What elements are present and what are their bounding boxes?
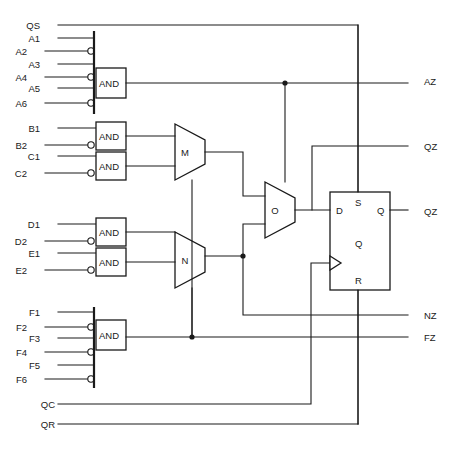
label-ff-q-center: Q [355, 238, 362, 249]
label-b1: B1 [28, 123, 40, 134]
label-and-f: AND [99, 330, 119, 341]
circuit-canvas: QS A1 A2 A3 A4 A5 A6 B1 B2 C1 C2 D1 D2 E… [0, 0, 462, 451]
label-and-d: AND [99, 227, 119, 238]
label-ff-r: R [355, 275, 362, 286]
label-a6: A6 [15, 98, 27, 109]
label-f3: F3 [29, 333, 40, 344]
mux-n-body [175, 232, 205, 288]
junction-mux-n-out [240, 253, 245, 258]
wire-mux-n-to-mux-o [243, 224, 265, 256]
label-b2: B2 [15, 140, 27, 151]
label-f1: F1 [29, 307, 40, 318]
circuit-schematic: QS A1 A2 A3 A4 A5 A6 B1 B2 C1 C2 D1 D2 E… [0, 0, 462, 451]
wire-mux-m-to-mux-o [205, 152, 265, 196]
bubble-d2 [88, 238, 94, 244]
output-labels: AZ QZ QZ NZ FZ [424, 76, 437, 343]
label-and-b: AND [99, 131, 119, 142]
input-wires [45, 25, 358, 424]
label-and-a: AND [99, 78, 119, 89]
label-a4: A4 [15, 72, 27, 83]
label-mux-n: N [182, 255, 189, 266]
bubble-c2 [88, 170, 94, 176]
label-fz: FZ [424, 332, 436, 343]
gate-labels: AND AND AND AND AND AND [99, 78, 119, 341]
label-qz-upper: QZ [424, 141, 437, 152]
label-and-e: AND [99, 257, 119, 268]
label-mux-o: O [271, 205, 278, 216]
label-az: AZ [424, 76, 436, 87]
junction-az-branch [282, 80, 287, 85]
label-a3: A3 [28, 59, 40, 70]
label-d2: D2 [15, 236, 27, 247]
input-labels: QS A1 A2 A3 A4 A5 A6 B1 B2 C1 C2 D1 D2 E… [15, 20, 55, 430]
label-c1: C1 [28, 151, 40, 162]
label-nz: NZ [424, 310, 437, 321]
bubble-b2 [88, 142, 94, 148]
mux-o-body [265, 182, 295, 238]
label-a2: A2 [15, 46, 27, 57]
label-e2: E2 [15, 265, 27, 276]
label-ff-s: S [355, 197, 361, 208]
label-qz-lower: QZ [424, 206, 437, 217]
bubble-e2 [88, 267, 94, 273]
junction-f-select [189, 334, 194, 339]
label-ff-q-out: Q [377, 205, 384, 216]
and-gates [96, 68, 126, 350]
label-a5: A5 [28, 83, 40, 94]
label-c2: C2 [15, 168, 27, 179]
label-f6: F6 [16, 374, 27, 385]
label-qs: QS [26, 20, 40, 31]
label-ff-d: D [336, 205, 343, 216]
mux-m-body [175, 124, 205, 180]
label-f2: F2 [16, 322, 27, 333]
label-e1: E1 [28, 248, 40, 259]
label-f5: F5 [29, 360, 40, 371]
label-mux-m: M [181, 147, 189, 158]
label-qr: QR [41, 419, 55, 430]
label-a1: A1 [28, 33, 40, 44]
label-and-c: AND [99, 161, 119, 172]
label-qc: QC [41, 399, 55, 410]
label-f4: F4 [16, 347, 27, 358]
label-d1: D1 [28, 219, 40, 230]
